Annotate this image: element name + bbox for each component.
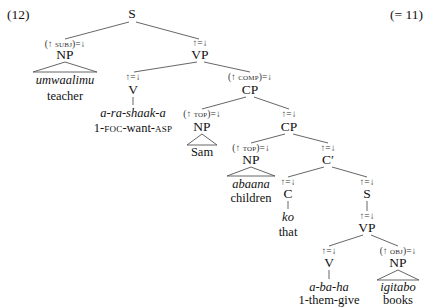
word-ko: ko	[282, 211, 294, 224]
node-np-subj: NP	[56, 48, 73, 62]
node-s-embedded: S	[363, 187, 371, 201]
word-a-ra-shaak-a: a-ra-shaak-a	[100, 107, 165, 120]
gloss-children: children	[231, 192, 272, 205]
gloss-that: that	[279, 226, 298, 239]
node-cp: CP	[281, 120, 298, 134]
example-reference: (= 11)	[390, 7, 423, 23]
node-v: V	[128, 83, 138, 97]
node-vp-embedded: VP	[358, 221, 375, 235]
node-s-root: S	[128, 7, 136, 21]
node-c: C	[283, 187, 292, 201]
node-v-embedded: V	[324, 256, 334, 270]
gloss-1-them-give: 1-them-give	[298, 294, 359, 307]
syntax-tree-diagram: (12) (= 11) S (↑ subj)=↓ NP umwaalimu te…	[0, 0, 429, 307]
node-np-top: NP	[242, 153, 259, 167]
node-vp: VP	[191, 48, 208, 62]
node-np-top: NP	[193, 120, 210, 134]
example-number: (12)	[7, 7, 30, 23]
node-np-obj: NP	[389, 256, 406, 270]
gloss-1-foc-want-asp: 1-foc-want-asp	[94, 122, 172, 135]
node-cp-comp: CP	[242, 83, 259, 97]
word-igitabo: igitabo	[380, 281, 415, 294]
word-abaana: abaana	[232, 178, 270, 191]
gloss-books: books	[383, 294, 413, 307]
node-c-bar: C′	[322, 153, 334, 167]
word-a-ba-ha: a-ba-ha	[309, 281, 349, 294]
word-umwaalimu: umwaalimu	[36, 74, 94, 87]
gloss-teacher: teacher	[47, 90, 83, 103]
word-sam: Sam	[191, 146, 213, 159]
